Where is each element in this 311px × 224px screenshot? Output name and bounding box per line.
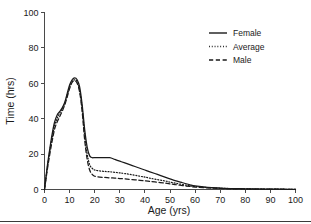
x-tick-label: 20 — [90, 195, 100, 205]
y-tick-label: 60 — [28, 79, 38, 89]
legend-label-average: Average — [233, 42, 265, 52]
series-average — [45, 80, 296, 190]
y-tick-label: 0 — [33, 185, 38, 195]
y-axis-title: Time (hrs) — [4, 77, 16, 124]
x-axis-title: Age (yrs) — [148, 204, 191, 216]
y-tick-label: 80 — [28, 43, 38, 53]
series-male — [45, 81, 296, 190]
series-lines — [45, 78, 296, 190]
y-axis-ticks — [41, 13, 45, 190]
x-tick-label: 40 — [140, 195, 150, 205]
x-tick-label: 90 — [265, 195, 275, 205]
chart-legend: FemaleAverageMale — [209, 28, 265, 65]
x-axis-ticks — [45, 190, 296, 194]
legend-label-male: Male — [233, 55, 252, 65]
x-tick-label: 60 — [190, 195, 200, 205]
figure-container: 0102030405060708090100 020406080100 Age … — [0, 0, 311, 224]
series-female — [45, 78, 296, 190]
line-chart: 0102030405060708090100 020406080100 Age … — [0, 0, 311, 224]
y-axis-tick-labels: 020406080100 — [23, 8, 38, 195]
y-tick-label: 40 — [28, 114, 38, 124]
x-tick-label: 30 — [115, 195, 125, 205]
x-tick-label: 100 — [288, 195, 303, 205]
x-axis-tick-labels: 0102030405060708090100 — [42, 195, 303, 205]
legend-label-female: Female — [233, 28, 262, 38]
x-tick-label: 80 — [240, 195, 250, 205]
y-tick-label: 20 — [28, 149, 38, 159]
x-tick-label: 50 — [165, 195, 175, 205]
x-tick-label: 0 — [42, 195, 47, 205]
x-tick-label: 10 — [65, 195, 75, 205]
x-tick-label: 70 — [215, 195, 225, 205]
y-tick-label: 100 — [23, 8, 38, 18]
